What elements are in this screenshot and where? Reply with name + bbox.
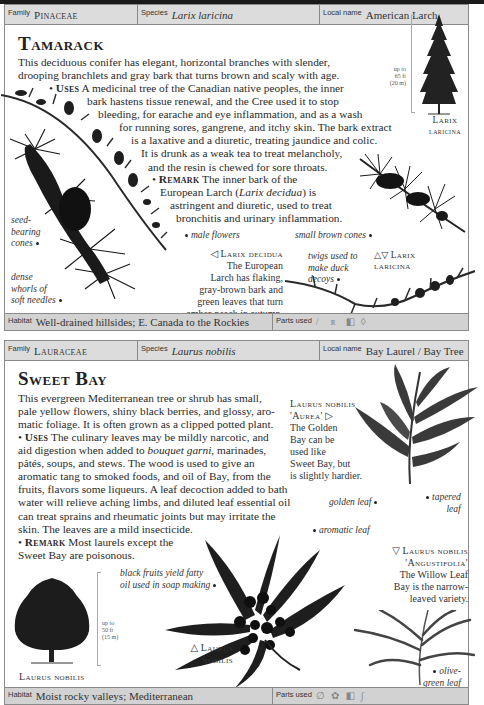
annotation-line: oil used in soap making <box>120 580 219 592</box>
annotation-line: whorls of <box>11 284 65 296</box>
bay-laurel-illustration <box>155 530 370 690</box>
tree-caption-line: Laurus nobilis <box>19 671 85 682</box>
habitat-label: Habitat <box>8 316 32 325</box>
caption-heading: ◁ Larix decidua <box>183 248 283 260</box>
annotation-line: twigs used to <box>308 251 358 263</box>
family-label: Family <box>8 8 30 17</box>
oil-icon: ∫ <box>361 691 371 701</box>
up-down-arrow-icon: △▽ <box>374 250 388 260</box>
parts-used-field: Parts used ∅ ✿ ◧ ∫ <box>273 688 468 704</box>
remark-text: ) is <box>302 186 316 198</box>
resin-icon: ʀ <box>331 317 341 327</box>
annotation-brown-cones: small brown cones <box>295 230 375 242</box>
larix-decidua-caption: ◁ Larix decidua The European Larch has f… <box>183 248 283 320</box>
caption-name: nobilis <box>183 654 233 666</box>
wood-icon: ◧ <box>346 691 356 701</box>
leader-dot <box>426 496 429 499</box>
annotation-line: make duck <box>308 263 358 275</box>
leaf-icon: ◧ <box>346 317 356 327</box>
tree-caption: Larix laricina <box>420 115 470 137</box>
uses-text: The culinary leaves may be mildly narcot… <box>51 431 269 443</box>
caption-line: The European <box>183 260 283 272</box>
entry-footer: Habitat Moist rocky valleys; Mediterrane… <box>5 687 468 705</box>
uses-paragraph: • Uses The culinary leaves may be mildly… <box>18 431 290 536</box>
caption-name: 'Aurea' <box>290 410 323 421</box>
caption-line: green leaves that turn <box>183 296 283 308</box>
leader-dot <box>369 234 372 237</box>
leader-dot <box>213 584 216 587</box>
height-note-line: up to <box>386 66 406 73</box>
leader-dot <box>59 299 62 302</box>
remark-line: bronchitis and urinary inflammation. <box>152 212 342 225</box>
larch-tree-silhouette <box>414 12 464 116</box>
habitat-label: Habitat <box>8 690 32 699</box>
caption-line: Larch has flaking, <box>183 272 283 284</box>
tree-caption-line: laricina <box>420 126 470 137</box>
parts-used-label: Parts used <box>276 690 312 699</box>
species-label: Species <box>141 8 168 17</box>
leader-dot <box>374 501 377 504</box>
annotation-text: tapered <box>432 492 461 502</box>
remark-line: • Remark The inner bark of the <box>152 173 342 186</box>
plant-entry-sweet-bay: Family Lauraceae Species Laurus nobilis … <box>4 340 469 705</box>
annotation-line: golden leaf <box>329 497 380 509</box>
caption-name: 'Angustifolia' <box>373 557 468 569</box>
entry-header: Family Pinaceae Species Larix laricina L… <box>5 4 468 25</box>
annotation-line: bearing <box>11 227 42 239</box>
annotation-golden-leaf: golden leaf <box>329 497 380 509</box>
annotation-tapered-leaf: tapered leaf <box>423 492 461 515</box>
height-note: up to 50 ft (15 m) <box>102 620 118 641</box>
family-value: Lauraceae <box>34 345 87 357</box>
angustifolia-caption: ▽ Laurus nobilis 'Angustifolia' The Will… <box>373 545 468 605</box>
bay-tree-silhouette <box>11 576 93 664</box>
habitat-value: Well-drained hillsides; E. Canada to the… <box>36 316 249 328</box>
description: This evergreen Mediterranean tree or shr… <box>18 392 275 431</box>
caption-line: gray-brown bark and <box>183 284 283 296</box>
family-field: Family Lauraceae <box>5 341 138 360</box>
habitat-field: Habitat Well-drained hillsides; E. Canad… <box>5 314 273 330</box>
uses-line: pâtés, soups, and stews. The wood is use… <box>18 457 290 470</box>
uses-line: fruits, flavors some liqueurs. A leaf de… <box>18 483 290 496</box>
caption-line: leaved variety. <box>373 593 468 605</box>
annotation-text: decoys <box>308 274 334 284</box>
remark-line: • Remark Most laurels except the <box>18 536 173 549</box>
uses-text: aid digestion when added to <box>18 444 148 456</box>
caption-heading: △ Laurus <box>183 642 233 654</box>
up-arrow-icon: △ <box>191 642 199 653</box>
caption-name: laricina <box>374 261 415 272</box>
description-line: matic foliage. It is often grown as a cl… <box>18 418 275 431</box>
caption-line: Bay is the narrow- <box>373 581 468 593</box>
local-name-label: Local name <box>323 8 362 17</box>
annotation-line: dense <box>11 272 65 284</box>
height-scale-bar <box>97 572 101 666</box>
plant-entry-tamarack: Family Pinaceae Species Larix laricina L… <box>4 4 469 331</box>
family-label: Family <box>8 344 30 353</box>
annotation-twigs: twigs used to make duck decoys <box>308 251 358 286</box>
species-value: Larix laricina <box>172 9 233 21</box>
leader-dot <box>433 670 436 673</box>
annotation-line: olive- <box>423 666 461 678</box>
remark-line: Sweet Bay are poisonous. <box>18 549 173 562</box>
description-line: pale yellow flowers, shiny black berries… <box>18 405 275 418</box>
description: This deciduous conifer has elegant, hori… <box>18 56 339 82</box>
caption-line: The Willow Leaf <box>373 569 468 581</box>
flower-icon: ✿ <box>331 691 341 701</box>
tree-caption-line: Larix <box>420 115 470 126</box>
remark-text: The inner bark of the <box>202 173 297 185</box>
caption-name: Laurus nobilis <box>402 545 468 556</box>
uses-line: aromatic tang to smoked foods, and oil o… <box>18 470 290 483</box>
remark-paragraph: • Remark The inner bark of the European … <box>152 173 342 225</box>
height-note: up to 65 ft (20 m) <box>386 66 406 87</box>
annotation-text: soft needles <box>11 295 56 305</box>
annotation-line: small brown cones <box>295 230 375 242</box>
annotation-line: seed- <box>11 215 42 227</box>
larch-cone-branch-illustration <box>350 154 475 234</box>
description-line: This deciduous conifer has elegant, hori… <box>18 56 339 69</box>
species-value: Laurus nobilis <box>172 345 236 357</box>
leader-dot <box>185 234 188 237</box>
golden-bay-illustration <box>350 362 480 487</box>
height-note-line: 50 ft <box>102 627 118 634</box>
laurus-nobilis-caption: △ Laurus nobilis <box>183 642 233 666</box>
uses-text: , marinades, <box>211 444 266 456</box>
annotation-line: decoys <box>308 274 358 286</box>
